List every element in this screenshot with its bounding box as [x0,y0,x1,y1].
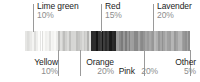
bar-segment-lime-green [42,31,59,51]
bar-segment-lavender [149,31,182,51]
callout-lavender: Lavender 20% [154,2,192,20]
callout-lime-green: Lime green 10% [34,2,79,20]
callout-red: Red 15% [102,2,122,20]
bar-segment-orange [58,31,91,51]
stacked-bar [25,31,190,51]
bar-segment-other [182,31,190,51]
callout-yellow: Yellow 10% [2,58,61,76]
bar-stripe [188,31,190,51]
callout-value-lavender: 20% [157,11,192,20]
callout-value-other: 5% [150,67,196,76]
callout-value-lime-green: 10% [37,11,79,20]
callout-other: Other 5% [150,58,199,76]
callout-label-pink: Pink [119,66,135,76]
bar-segment-yellow [25,31,42,51]
color-distribution-chart: Lime green 10% Red 15% Lavender 20% Yell… [0,0,200,82]
bar-segment-pink [116,31,149,51]
callout-value-yellow: 10% [2,67,58,76]
callout-value-red: 15% [105,11,122,20]
bar-segment-red [91,31,116,51]
